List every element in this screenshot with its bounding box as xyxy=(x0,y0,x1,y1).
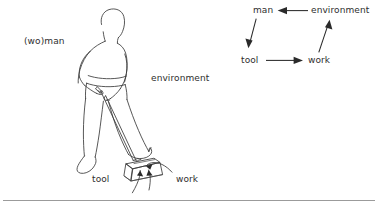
edge-environment-to-man xyxy=(278,7,308,14)
edge-work-to-environment xyxy=(319,20,333,53)
edge-tool-to-work xyxy=(266,57,303,64)
diagram-node-work: work xyxy=(308,55,330,65)
diagram-node-environment: environment xyxy=(311,5,369,15)
edge-man-to-tool xyxy=(245,19,256,49)
cycle-diagram-arrows xyxy=(0,0,378,209)
diagram-node-tool: tool xyxy=(241,55,258,65)
page-divider-rule xyxy=(3,200,375,201)
figure-canvas: (wo)man environment tool work man enviro… xyxy=(0,0,378,209)
diagram-node-man: man xyxy=(253,5,273,15)
